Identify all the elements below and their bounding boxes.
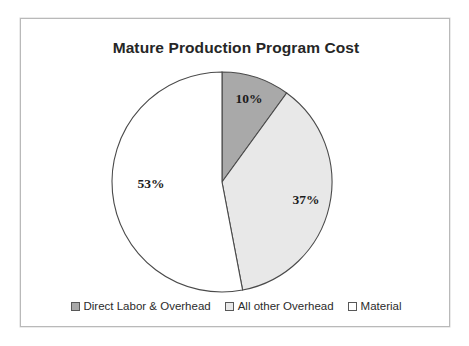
pie-slice-label-material: 53%	[138, 176, 165, 192]
legend-label-all-other-overhead: All other Overhead	[238, 300, 334, 312]
legend-item-direct-labor-overhead[interactable]: Direct Labor & Overhead	[71, 300, 211, 312]
legend-label-material: Material	[361, 300, 402, 312]
legend-swatch-icon-material	[348, 302, 357, 311]
pie-slice-label-direct-labor-overhead: 10%	[236, 91, 263, 107]
chart-legend: Direct Labor & Overhead All other Overhe…	[21, 300, 451, 312]
legend-item-all-other-overhead[interactable]: All other Overhead	[225, 300, 334, 312]
pie-slice-label-all-other-overhead: 37%	[293, 192, 320, 208]
legend-label-direct-labor-overhead: Direct Labor & Overhead	[84, 300, 211, 312]
pie-chart: 10% 37% 53%	[21, 19, 451, 328]
legend-swatch-icon-all-other-overhead	[225, 302, 234, 311]
legend-item-material[interactable]: Material	[348, 300, 402, 312]
chart-frame: Mature Production Program Cost 10% 37% 5…	[20, 18, 450, 327]
legend-swatch-icon-direct-labor-overhead	[71, 302, 80, 311]
